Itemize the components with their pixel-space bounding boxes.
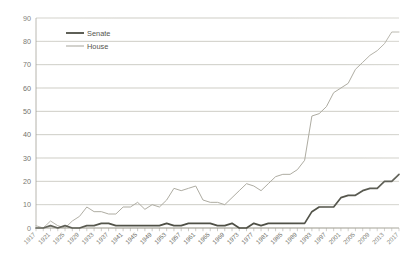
chart-container: 0102030405060708090 19171921192519291933…: [0, 0, 407, 272]
y-tick-label-80: 80: [23, 37, 31, 46]
legend-label-house: House: [87, 42, 108, 51]
y-tick-label-50: 50: [23, 107, 31, 116]
y-tick-label-10: 10: [23, 200, 31, 209]
y-tick-label-90: 90: [23, 14, 31, 23]
y-tick-label-70: 70: [23, 60, 31, 69]
legend-label-senate: Senate: [87, 29, 110, 38]
y-tick-label-30: 30: [23, 154, 31, 163]
congress-women-line-chart: 0102030405060708090 19171921192519291933…: [0, 0, 407, 272]
y-tick-label-20: 20: [23, 177, 31, 186]
y-tick-label-60: 60: [23, 84, 31, 93]
y-tick-label-40: 40: [23, 130, 31, 139]
